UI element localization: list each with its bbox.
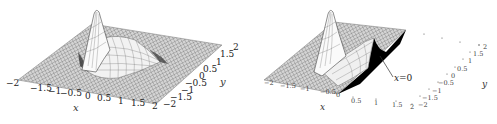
y-tick: 2 (483, 44, 487, 51)
y-tick: −1 (432, 88, 442, 95)
y-tick: 0.5 (457, 66, 467, 73)
surface-plot-full: −2 −1.5 −1 −0.5 0 0.5 1 1.5 2 x −2 −1.5 … (0, 0, 250, 124)
x-axis-label: x (73, 103, 79, 113)
x-tick: −2 (264, 80, 274, 87)
x-axis-label: x (320, 103, 325, 112)
y-axis-label: y (220, 77, 226, 87)
y-axis-label: y (482, 80, 487, 89)
x-tick: −0.5 (60, 89, 82, 98)
x-tick: 0.5 (97, 94, 111, 103)
annotation-leader-line (380, 56, 393, 77)
y-tick: −1.5 (422, 95, 438, 102)
x-tick: −1 (300, 86, 310, 93)
y-tick: 1 (216, 58, 222, 67)
x-tick: 0 (336, 92, 340, 99)
x-tick: 1 (374, 100, 378, 107)
y-tick: 2 (233, 43, 239, 52)
x-tick: −1.5 (280, 83, 296, 90)
x-tick: 2 (410, 104, 414, 111)
x-tick: 0 (85, 92, 91, 101)
surface-plot-cut: x=0 −2 −1.5 −1 −0.5 0 0.5 1 1.5 2 x −2 −… (250, 0, 497, 124)
y-tick: −2 (418, 102, 428, 109)
annotation-x-equals-0: x=0 (394, 74, 412, 83)
x-tick: −0.5 (320, 89, 336, 96)
y-tick: 1.5 (473, 51, 483, 58)
x-tick: 1.5 (131, 99, 145, 108)
y-tick: 1 (468, 58, 472, 65)
x-tick: 2 (152, 102, 158, 111)
surface-mesh-full (0, 0, 250, 124)
x-tick: 1 (118, 97, 124, 106)
x-tick: −2 (6, 79, 19, 88)
y-tick: −0.5 (438, 80, 454, 87)
y-tick: 0 (451, 73, 455, 80)
x-tick: 1.5 (392, 102, 402, 109)
x-tick: 0.5 (351, 98, 361, 105)
